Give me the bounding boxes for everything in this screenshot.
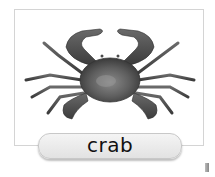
word-label: crab [38,133,182,159]
corner-artifact [205,163,209,172]
crab-illustration [20,25,200,125]
word-label-text: crab [87,135,133,155]
